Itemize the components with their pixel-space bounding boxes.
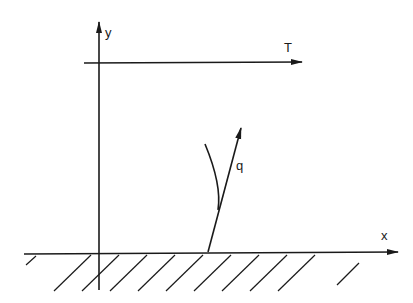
hatch-line (278, 255, 315, 291)
hatch-line (194, 255, 231, 291)
hatch-line (26, 256, 36, 265)
x-axis-label: x (381, 228, 388, 243)
ground-hatching (26, 255, 359, 291)
hatch-line (82, 255, 119, 291)
heat-flux-label: q (236, 158, 243, 173)
temperature-line (84, 62, 302, 63)
hatch-line (166, 255, 203, 291)
hatch-line (250, 255, 287, 291)
hatch-line (110, 255, 147, 291)
hatch-line (138, 255, 175, 291)
hatch-line (337, 263, 359, 285)
heat-flux-vector (208, 128, 241, 252)
x-axis (24, 252, 398, 254)
y-axis-label: y (105, 25, 112, 40)
boundary-curve (205, 144, 219, 210)
hatch-line (54, 255, 91, 291)
temperature-label: T (284, 40, 292, 55)
hatch-line (222, 255, 259, 291)
diagram-canvas: y T q x (0, 0, 413, 303)
